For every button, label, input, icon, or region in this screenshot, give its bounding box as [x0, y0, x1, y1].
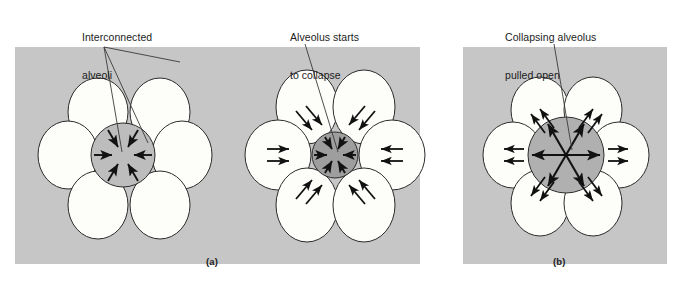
callout-line-2: pulled open — [505, 69, 596, 82]
callout-collapsing-alveolus-pulled-open: Collapsing alveolus pulled open — [505, 6, 596, 106]
callout-line-2: alveoli — [82, 69, 152, 82]
alveolus-lower-right — [333, 168, 395, 242]
callout-alveolus-starts-to-collapse: Alveolus starts to collapse — [290, 6, 359, 106]
callout-line-2: to collapse — [290, 69, 359, 82]
callout-line-1: Alveolus starts — [290, 31, 359, 44]
alveolus-lower-left — [276, 168, 338, 242]
panel-caption-a: (a) — [206, 256, 218, 267]
callout-interconnected-alveoli: Interconnected alveoli — [82, 6, 152, 106]
alveolar-interdependence-figure: Interconnected alveoli Alveolus starts t… — [0, 0, 681, 282]
callout-line-1: Collapsing alveolus — [505, 31, 596, 44]
callout-line-1: Interconnected — [82, 31, 152, 44]
panel-caption-b: (b) — [553, 256, 566, 267]
